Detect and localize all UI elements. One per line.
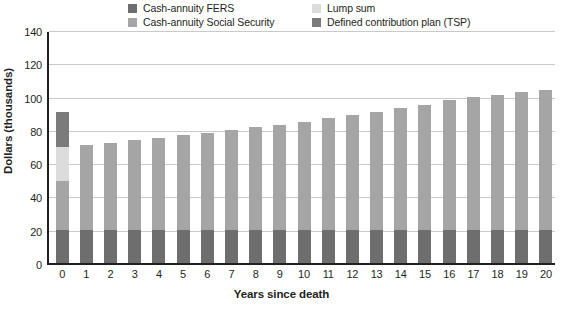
bar-segment [346,115,359,230]
bar-year-3 [128,140,141,263]
bar-segment [177,230,190,263]
bar-year-7 [225,130,238,263]
legend-swatch-lump-sum [312,4,321,13]
x-tick-15: 15 [419,268,431,280]
bar-year-6 [201,133,214,263]
legend-label-cash-annuity-social-security: Cash-annuity Social Security [143,15,274,29]
x-tick-19: 19 [516,268,528,280]
bar-segment [104,143,117,230]
bar-segment [515,230,528,263]
legend-label-lump-sum: Lump sum [327,1,375,15]
x-tick-14: 14 [395,268,407,280]
bar-segment [322,230,335,263]
y-tick-0: 0 [36,259,42,271]
plot-area [47,32,555,265]
bar-year-20 [539,90,552,263]
bar-year-4 [152,138,165,263]
legend-label-cash-annuity-fers: Cash-annuity FERS [143,1,234,15]
x-tick-12: 12 [346,268,358,280]
bar-segment [298,122,311,230]
bar-segment [152,138,165,230]
chart-figure: Cash-annuity FERS Lump sum Cash-annuity … [0,0,563,312]
x-tick-1: 1 [83,268,89,280]
bar-segment [225,230,238,263]
legend-swatch-cash-annuity-social-security [128,18,137,27]
x-tick-8: 8 [253,268,259,280]
x-tick-20: 20 [540,268,552,280]
legend-item-cash-annuity-social-security: Cash-annuity Social Security [128,15,310,29]
bar-year-9 [273,125,286,263]
bar-segment [152,230,165,263]
bar-segment [128,140,141,230]
bar-segment [418,105,431,230]
bar-year-13 [370,112,383,263]
x-tick-11: 11 [323,268,334,280]
y-tick-140: 140 [24,26,42,38]
legend-item-defined-contribution-plan: Defined contribution plan (TSP) [310,15,528,29]
x-tick-16: 16 [443,268,455,280]
bar-year-17 [467,97,480,263]
bar-segment [491,95,504,230]
y-tick-40: 40 [30,192,42,204]
x-tick-7: 7 [228,268,234,280]
x-tick-6: 6 [204,268,210,280]
bar-year-19 [515,92,528,263]
bar-segment [201,133,214,230]
x-tick-17: 17 [467,268,479,280]
bar-year-12 [346,115,359,263]
y-axis-title: Dollars (thousands) [2,31,14,211]
y-tick-80: 80 [30,126,42,138]
bar-segment [539,90,552,230]
x-tick-0: 0 [59,268,65,280]
bar-segment [322,118,335,230]
bar-segment [394,230,407,263]
x-axis-title: Years since death [0,288,563,300]
bar-segment [249,127,262,230]
bar-segment [539,230,552,263]
bar-year-16 [443,100,456,263]
bar-segment [56,112,69,147]
bar-year-2 [104,143,117,263]
bar-segment [273,125,286,230]
x-tick-4: 4 [156,268,162,280]
bar-segment [56,181,69,229]
bar-segment [249,230,262,263]
y-tick-20: 20 [30,226,42,238]
bar-segment [201,230,214,263]
bar-segment [443,100,456,230]
bar-year-18 [491,95,504,263]
bar-segment [80,230,93,263]
bar-segment [394,108,407,229]
bar-segment [418,230,431,263]
legend-label-defined-contribution-plan: Defined contribution plan (TSP) [327,15,470,29]
bar-year-0 [56,112,69,263]
bar-segment [128,230,141,263]
bar-year-15 [418,105,431,263]
bar-series-container [49,32,555,263]
bar-year-1 [80,145,93,263]
x-tick-5: 5 [180,268,186,280]
bar-segment [104,230,117,263]
bar-segment [56,147,69,182]
bar-segment [370,112,383,230]
bar-year-10 [298,122,311,263]
x-tick-9: 9 [277,268,283,280]
bar-segment [467,230,480,263]
x-tick-3: 3 [132,268,138,280]
bar-segment [273,230,286,263]
y-tick-120: 120 [24,59,42,71]
bar-segment [491,230,504,263]
bar-year-5 [177,135,190,263]
bar-year-14 [394,108,407,263]
legend-item-lump-sum: Lump sum [310,1,528,15]
bar-segment [56,230,69,263]
bar-segment [346,230,359,263]
x-tick-10: 10 [298,268,310,280]
x-axis-tick-labels: 01234567891011121314151617181920 [49,268,555,284]
x-tick-18: 18 [492,268,504,280]
bar-segment [515,92,528,230]
bar-segment [443,230,456,263]
x-tick-2: 2 [108,268,114,280]
bar-segment [370,230,383,263]
x-tick-13: 13 [371,268,383,280]
